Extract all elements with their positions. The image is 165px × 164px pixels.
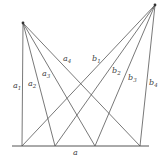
label-a3: a3 [42, 69, 51, 79]
ray-diagram: a1 a2 a3 a4 b1 b2 b3 b4 a [0, 0, 165, 164]
right-apex-point [154, 4, 157, 7]
ray-a4 [23, 23, 140, 146]
label-a2: a2 [28, 79, 37, 89]
label-a1: a1 [13, 81, 21, 91]
label-b3: b3 [128, 73, 137, 83]
ray-b3 [95, 5, 155, 146]
label-b2: b2 [112, 66, 121, 76]
label-b4: b4 [149, 78, 158, 88]
left-apex-point [22, 22, 25, 25]
ray-b4 [140, 5, 155, 146]
label-baseline: a [73, 148, 78, 157]
ray-a1 [22, 23, 23, 146]
label-b1: b1 [92, 54, 101, 64]
ray-b2 [55, 5, 155, 146]
label-a4: a4 [63, 54, 72, 64]
